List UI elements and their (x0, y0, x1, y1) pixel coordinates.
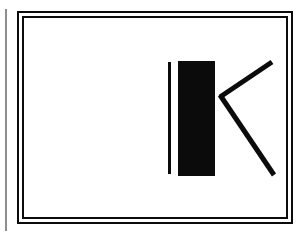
frame-outer-border (17, 11, 293, 224)
artboard (0, 0, 302, 237)
left-margin-rule (5, 9, 7, 231)
frame-inner-border (22, 16, 288, 219)
